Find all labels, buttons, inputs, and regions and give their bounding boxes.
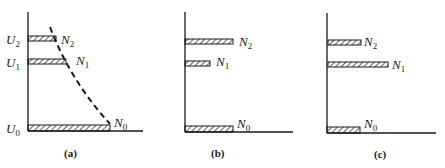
label-u1: U1 [6, 55, 20, 72]
bar-level-0 [327, 127, 360, 133]
label-n1: N1 [391, 57, 405, 74]
caption-a: (a) [64, 147, 77, 160]
label-n0: N0 [363, 116, 378, 133]
bar-level-0 [28, 125, 110, 131]
label-n2: N2 [60, 32, 74, 49]
energy-level-diagram: U2 U1 U0 N2 N1 N0 (a) N2 N1 N0 (b) N2 N1… [0, 0, 445, 168]
panel-b: N2 N1 N0 (b) [185, 12, 293, 160]
label-n0: N0 [113, 115, 128, 132]
label-u2: U2 [6, 32, 20, 49]
bar-level-1 [28, 59, 66, 64]
bar-level-2 [28, 36, 56, 41]
label-n1: N1 [75, 53, 89, 70]
label-u0: U0 [6, 121, 20, 138]
bar-level-1 [328, 62, 388, 67]
bar-level-0 [185, 126, 233, 132]
caption-b: (b) [211, 147, 225, 160]
label-n1: N1 [215, 54, 229, 71]
bar-level-2 [328, 40, 361, 45]
label-n2: N2 [363, 34, 377, 51]
boltzmann-curve [50, 27, 110, 124]
bar-level-1 [185, 61, 210, 66]
label-n2: N2 [238, 34, 252, 51]
label-n0: N0 [236, 116, 251, 133]
panel-c: N2 N1 N0 (c) [327, 13, 436, 161]
caption-c: (c) [374, 148, 387, 161]
panel-a: U2 U1 U0 N2 N1 N0 (a) [6, 12, 143, 160]
bar-level-2 [185, 39, 233, 44]
